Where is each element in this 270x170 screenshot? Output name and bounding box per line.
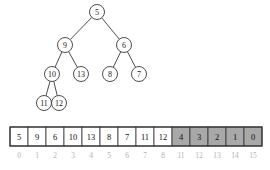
- array-cell-value: 2: [215, 133, 219, 142]
- array-cell-value: 13: [87, 133, 96, 142]
- array-cell-value: 4: [179, 133, 183, 142]
- array-cell-index: 13: [213, 152, 221, 160]
- figure-binary-tree-array: 5961013871112 596101387111243210 0123456…: [0, 0, 270, 170]
- array-svg: [0, 0, 270, 170]
- array-cell-index: 4: [89, 152, 93, 160]
- array-cell-index: 7: [143, 152, 147, 160]
- array-cell-index: 6: [125, 152, 129, 160]
- array-cell-value: 7: [125, 133, 129, 142]
- array-cell-index: 12: [195, 152, 203, 160]
- array-cell-value: 8: [107, 133, 111, 142]
- array-cell-value: 11: [141, 133, 149, 142]
- array-cell-value: 6: [53, 133, 57, 142]
- array-cell-index: 3: [71, 152, 75, 160]
- array-cell-value: 5: [17, 133, 21, 142]
- array-diagram: 596101387111243210 0123456781112131415: [0, 0, 270, 170]
- array-cell-value: 10: [69, 133, 78, 142]
- array-cell-index: 15: [249, 152, 257, 160]
- array-cell-index: 14: [231, 152, 239, 160]
- array-cell-value: 3: [197, 133, 201, 142]
- array-cell-index: 8: [161, 152, 165, 160]
- array-cell-index: 0: [17, 152, 21, 160]
- array-cell-index: 1: [35, 152, 39, 160]
- array-cell-group: [10, 127, 262, 146]
- array-cell-index: 5: [107, 152, 111, 160]
- array-cell-value: 12: [159, 133, 168, 142]
- array-cell-index: 2: [53, 152, 57, 160]
- array-cell-value: 0: [251, 133, 255, 142]
- array-cell-value: 1: [233, 133, 237, 142]
- array-cell-value: 9: [35, 133, 39, 142]
- array-cell-index: 11: [177, 152, 184, 160]
